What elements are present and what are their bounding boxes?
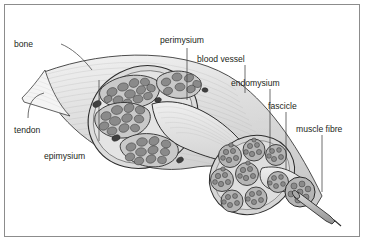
label-fascicle: fascicle	[268, 101, 297, 111]
label-endomysium: endomysium	[231, 78, 280, 88]
label-muscle-fibre: muscle fibre	[296, 124, 343, 134]
label-blood-vessel: blood vessel	[197, 54, 245, 64]
label-perimysium: perimysium	[160, 35, 204, 45]
label-tendon: tendon	[14, 125, 41, 135]
label-bone: bone	[14, 39, 33, 49]
muscle-structure-diagram: bone tendon epimysium perimysium blood v…	[0, 0, 366, 243]
label-epimysium: epimysium	[44, 151, 85, 161]
figure-canvas: bone tendon epimysium perimysium blood v…	[0, 0, 366, 243]
